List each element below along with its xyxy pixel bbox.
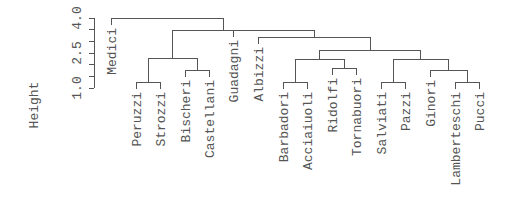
leaf-label: Acciaiuoli [301,92,316,170]
dendrogram-link [136,82,160,89]
dendrogram-link [283,82,307,89]
leaf-label: Ridolfi [326,78,341,133]
leaf-label: Albizzi [252,47,267,102]
dendrogram-link [258,37,370,50]
dendrogram-link [233,30,314,37]
y-tick-label: 2.5 [70,41,85,64]
dendrogram-link [185,70,209,77]
leaf-label: Lamberteschi [449,92,464,186]
leaf-label: Ginori [424,80,439,127]
leaf-labels: MediciPeruzziStrozziBischeriCastellaniGu… [105,28,488,186]
leaf-label: Peruzzi [130,92,145,147]
dendrogram-link [381,82,405,89]
leaf-label: Castellani [203,80,218,158]
dendrogram-link [111,18,223,30]
leaf-label: Pucci [473,92,488,131]
dendrogram-branches [111,18,479,89]
leaf-label: Medici [105,28,120,75]
leaf-label: Pazzi [399,92,414,131]
leaf-label: Guadagni [227,40,242,103]
leaf-label: Salviati [375,92,390,155]
dendrogram-link [455,82,479,89]
leaf-label: Tornabuori [350,78,365,156]
leaf-label: Strozzi [154,92,169,147]
leaf-label: Bischeri [179,80,194,143]
dendrogram-chart: 1.02.54.0 MediciPeruzziStrozziBischeriCa… [0,0,512,203]
dendrogram-svg: 1.02.54.0 MediciPeruzziStrozziBischeriCa… [0,0,512,203]
y-tick-label: 4.0 [70,6,85,29]
y-tick-label: 1.0 [70,76,85,99]
leaf-label: Barbadori [277,92,292,162]
y-axis: 1.02.54.0 [70,6,94,99]
dendrogram-link [320,50,421,59]
dendrogram-link [332,68,356,75]
y-axis-label: Height [27,82,42,129]
